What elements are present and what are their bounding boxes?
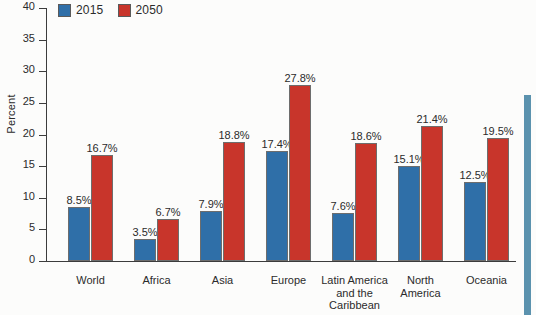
bar-2015: 12.5% — [464, 182, 486, 261]
bar-value-label: 21.4% — [416, 113, 447, 125]
bar-2015: 7.6% — [332, 213, 354, 261]
y-axis-tick: 35 — [39, 40, 46, 41]
bar-2050: 6.7% — [157, 219, 179, 261]
bar-value-label: 12.5% — [459, 169, 490, 181]
y-axis-tick-label: 15 — [23, 158, 35, 170]
bar-2015: 15.1% — [398, 166, 420, 262]
y-axis-tick-label: 20 — [23, 127, 35, 139]
y-axis-tick: 10 — [39, 198, 46, 199]
x-axis-label: North America — [383, 274, 458, 299]
chart-container: 2015 2050 Percent 0510152025303540 8.5%1… — [0, 0, 536, 315]
bar-group: 7.9%18.8% — [197, 8, 248, 261]
y-axis-tick-label: 40 — [23, 0, 35, 12]
bar-value-label: 18.6% — [350, 130, 381, 142]
bar-value-label: 17.4% — [261, 138, 292, 150]
bar-group: 15.1%21.4% — [395, 8, 446, 261]
x-axis-line — [46, 261, 516, 262]
y-axis-tick-label: 30 — [23, 63, 35, 75]
bar-2050: 16.7% — [91, 155, 113, 261]
bar-group: 7.6%18.6% — [329, 8, 380, 261]
y-axis-tick: 40 — [39, 8, 46, 9]
bar-value-label: 6.7% — [155, 206, 180, 218]
bar-group: 12.5%19.5% — [461, 8, 512, 261]
bar-value-label: 15.1% — [393, 153, 424, 165]
bar-2015: 8.5% — [68, 207, 90, 261]
y-axis-tick-label: 5 — [29, 221, 35, 233]
x-axis-label: Oceania — [449, 274, 524, 287]
y-axis-title: Percent — [5, 79, 17, 149]
y-axis-tick: 30 — [39, 71, 46, 72]
bar-value-label: 16.7% — [86, 142, 117, 154]
y-axis-tick-label: 35 — [23, 32, 35, 44]
page-edge-decoration — [524, 95, 531, 315]
bar-group: 8.5%16.7% — [65, 8, 116, 261]
bar-value-label: 7.9% — [198, 198, 223, 210]
x-axis-label: Africa — [119, 274, 194, 287]
bar-2050: 27.8% — [289, 85, 311, 261]
bar-2050: 21.4% — [421, 126, 443, 261]
bar-2015: 3.5% — [134, 239, 156, 261]
x-axis-label: Asia — [185, 274, 260, 287]
bar-2015: 17.4% — [266, 151, 288, 261]
y-axis-tick-label: 10 — [23, 190, 35, 202]
x-axis-label: Europe — [251, 274, 326, 287]
bar-value-label: 18.8% — [218, 129, 249, 141]
bar-value-label: 27.8% — [284, 72, 315, 84]
y-axis-line — [46, 8, 47, 262]
bar-2050: 18.6% — [355, 143, 377, 261]
bar-value-label: 3.5% — [132, 226, 157, 238]
bar-2015: 7.9% — [200, 211, 222, 261]
bar-2050: 19.5% — [487, 138, 509, 261]
bar-group: 17.4%27.8% — [263, 8, 314, 261]
y-axis-tick: 20 — [39, 135, 46, 136]
x-axis-label: Latin America and the Caribbean — [317, 274, 392, 312]
bar-value-label: 19.5% — [482, 125, 513, 137]
bar-value-label: 7.6% — [330, 200, 355, 212]
x-axis-label: World — [53, 274, 128, 287]
plot-area: 0510152025303540 8.5%16.7%3.5%6.7%7.9%18… — [46, 8, 516, 262]
y-axis-tick-label: 25 — [23, 95, 35, 107]
y-axis-tick-label: 0 — [29, 253, 35, 265]
y-axis-tick: 15 — [39, 166, 46, 167]
y-axis-tick: 0 — [39, 261, 46, 262]
bar-2050: 18.8% — [223, 142, 245, 261]
y-axis-tick: 25 — [39, 103, 46, 104]
y-axis-tick: 5 — [39, 229, 46, 230]
bar-value-label: 8.5% — [66, 194, 91, 206]
bar-group: 3.5%6.7% — [131, 8, 182, 261]
